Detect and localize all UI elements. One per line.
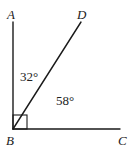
point-label-d: D (76, 7, 87, 22)
angle-abd-measure: 32° (20, 69, 38, 84)
angle-diagram: A D B C 32° 58° (0, 0, 130, 149)
point-label-b: B (6, 133, 14, 148)
point-label-a: A (6, 7, 15, 22)
point-label-c: C (118, 133, 127, 148)
angle-dbc-measure: 58° (56, 93, 74, 108)
